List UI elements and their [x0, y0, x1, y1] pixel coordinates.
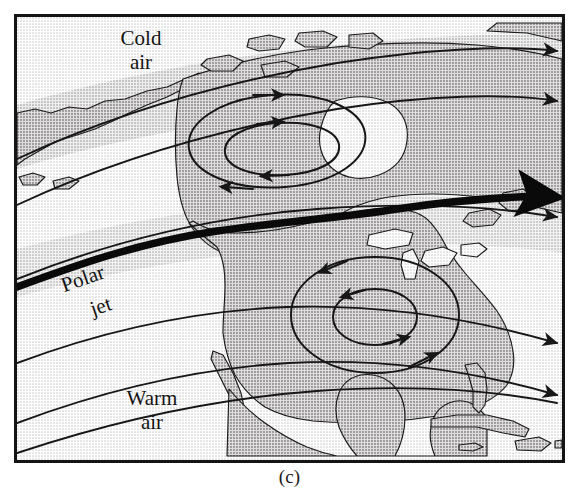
cold-air-label-line1: Cold	[121, 26, 162, 50]
weather-map-frame: Cold air Warm air Polar jet	[14, 14, 565, 463]
cold-air-label-line2: air	[130, 50, 152, 74]
warm-air-label-line2: air	[141, 410, 163, 434]
warm-air-label-line1: Warm	[127, 386, 178, 410]
figure-caption: (c)	[0, 466, 579, 488]
weather-map-svg: Cold air Warm air Polar jet	[17, 17, 562, 460]
circulation-northern-inner-arrow-bottom	[265, 175, 289, 176]
land-puerto-rico	[555, 440, 562, 448]
figure-root: Cold air Warm air Polar jet (c)	[0, 0, 579, 502]
